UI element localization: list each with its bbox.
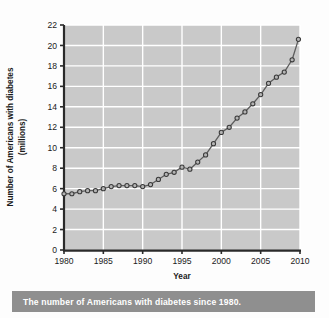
y-tick-label-20: 20 — [47, 41, 57, 51]
y-tick-label-12: 12 — [47, 122, 57, 132]
data-point-1988 — [125, 183, 129, 187]
data-point-1999 — [211, 142, 215, 146]
x-tick-label-2010: 2010 — [290, 256, 309, 266]
data-point-1992 — [156, 177, 160, 181]
caption-text: The number of Americans with diabetes si… — [12, 297, 241, 307]
y-tick-label-2: 2 — [52, 225, 57, 235]
data-point-1987 — [117, 183, 121, 187]
y-axis-title-line2: (millions) — [18, 119, 27, 156]
x-tick-label-1985: 1985 — [94, 256, 113, 266]
data-point-2006 — [266, 81, 270, 85]
data-point-1991 — [148, 182, 152, 186]
data-point-1998 — [204, 153, 208, 157]
data-point-2007 — [274, 75, 278, 79]
data-point-1981 — [70, 192, 74, 196]
data-point-1986 — [109, 184, 113, 188]
data-point-1980 — [62, 192, 66, 196]
data-point-2000 — [219, 130, 223, 134]
x-tick-label-1995: 1995 — [172, 256, 191, 266]
data-point-2010 — [296, 37, 300, 41]
data-point-1983 — [86, 189, 90, 193]
data-point-2002 — [235, 116, 239, 120]
diabetes-line-chart: 0246810121416182022 19801985199019952000… — [0, 0, 329, 318]
data-point-1990 — [141, 184, 145, 188]
data-point-2001 — [227, 125, 231, 129]
y-tick-label-0: 0 — [52, 245, 57, 255]
data-point-1996 — [188, 167, 192, 171]
data-point-1984 — [93, 189, 97, 193]
data-point-1989 — [133, 183, 137, 187]
y-axis-title-group: Number of Americans with diabetes (milli… — [6, 67, 27, 206]
y-tick-label-18: 18 — [47, 61, 57, 71]
y-tick-label-14: 14 — [47, 102, 57, 112]
y-tick-label-6: 6 — [52, 184, 57, 194]
data-point-2005 — [259, 92, 263, 96]
figure-container: 0246810121416182022 19801985199019952000… — [0, 0, 329, 318]
y-tick-label-8: 8 — [52, 163, 57, 173]
x-axis-tick-labels: 1980198519901995200020052010 — [54, 256, 309, 266]
y-tick-label-10: 10 — [47, 143, 57, 153]
x-axis-title: Year — [173, 272, 191, 281]
data-point-2009 — [290, 58, 294, 62]
x-tick-label-1980: 1980 — [54, 256, 73, 266]
data-point-2003 — [243, 110, 247, 114]
y-tick-label-4: 4 — [52, 204, 57, 214]
y-tick-label-16: 16 — [47, 81, 57, 91]
data-point-1982 — [78, 190, 82, 194]
caption-bar: The number of Americans with diabetes si… — [12, 291, 315, 312]
x-tick-label-1990: 1990 — [133, 256, 152, 266]
data-point-2008 — [282, 70, 286, 74]
data-point-1997 — [196, 160, 200, 164]
data-point-1995 — [180, 165, 184, 169]
y-axis-tick-labels: 0246810121416182022 — [47, 20, 57, 255]
y-tick-label-22: 22 — [47, 20, 57, 30]
data-point-1994 — [172, 170, 176, 174]
data-point-1985 — [101, 187, 105, 191]
x-tick-label-2000: 2000 — [212, 256, 231, 266]
data-point-2004 — [251, 102, 255, 106]
data-point-1993 — [164, 172, 168, 176]
y-axis-title-line1: Number of Americans with diabetes — [6, 67, 15, 206]
x-tick-label-2005: 2005 — [251, 256, 270, 266]
